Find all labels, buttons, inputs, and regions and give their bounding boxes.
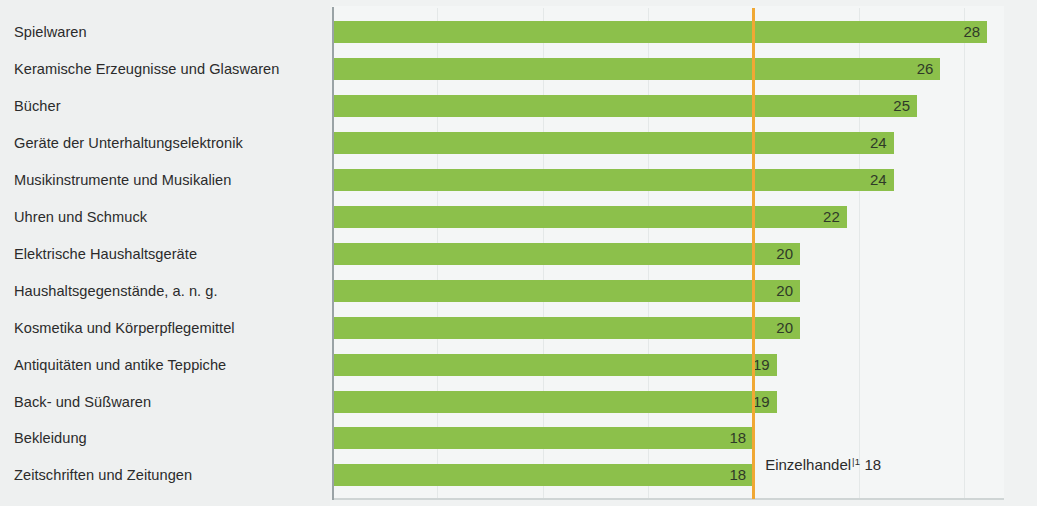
bar-value-label: 20 <box>332 280 800 302</box>
gridline <box>964 8 965 500</box>
bar-row: 20 <box>332 280 800 302</box>
bar-value-label: 22 <box>332 206 847 228</box>
category-label: Spielwaren <box>14 21 322 43</box>
category-label: Haushaltsgegenstände, a. n. g. <box>14 280 322 302</box>
plot-area: 28262524242220202019191818 Einzelhandel|… <box>332 0 1037 506</box>
reference-annotation-value: 18 <box>860 456 881 473</box>
bar-row: 19 <box>332 391 777 413</box>
category-label: Uhren und Schmuck <box>14 206 322 228</box>
category-label: Geräte der Unterhaltungselektronik <box>14 132 322 154</box>
bar-row: 24 <box>332 132 894 154</box>
bar-row: 26 <box>332 58 940 80</box>
bar-value-label: 24 <box>332 169 894 191</box>
bar-value-label: 24 <box>332 132 894 154</box>
bar-row: 28 <box>332 21 987 43</box>
category-label: Bücher <box>14 95 322 117</box>
bar-row: 25 <box>332 95 917 117</box>
bar-row: 18 <box>332 464 753 486</box>
bar-value-label: 19 <box>332 391 777 413</box>
reference-annotation: Einzelhandel|118 <box>765 453 881 474</box>
bar-row: 24 <box>332 169 894 191</box>
category-label: Elektrische Haushaltsgeräte <box>14 243 322 265</box>
category-label: Back- und Süßwaren <box>14 391 322 413</box>
category-label: Kosmetika und Körperpflegemittel <box>14 317 322 339</box>
axis-baseline <box>332 498 1004 500</box>
bar-value-label: 20 <box>332 243 800 265</box>
bar-chart: SpielwarenKeramische Erzeugnisse und Gla… <box>0 0 1037 506</box>
category-label: Bekleidung <box>14 427 322 449</box>
bar-value-label: 19 <box>332 354 777 376</box>
value-axis-line <box>332 7 334 500</box>
bar-value-label: 20 <box>332 317 800 339</box>
bar-row: 19 <box>332 354 777 376</box>
category-label: Antiquitäten und antike Teppiche <box>14 354 322 376</box>
bar-value-label: 18 <box>332 427 753 449</box>
bar-value-label: 25 <box>332 95 917 117</box>
category-label: Zeitschriften und Zeitungen <box>14 464 322 486</box>
bar-row: 18 <box>332 427 753 449</box>
bar-value-label: 28 <box>332 21 987 43</box>
reference-annotation-label: Einzelhandel <box>765 456 851 473</box>
bar-row: 22 <box>332 206 847 228</box>
bar-row: 20 <box>332 243 800 265</box>
category-label: Keramische Erzeugnisse und Glaswaren <box>14 58 322 80</box>
category-label: Musikinstrumente und Musikalien <box>14 169 322 191</box>
reference-line <box>752 8 755 499</box>
gridline <box>859 8 860 500</box>
bar-row: 20 <box>332 317 800 339</box>
bar-value-label: 26 <box>332 58 940 80</box>
bar-value-label: 18 <box>332 464 753 486</box>
category-axis: SpielwarenKeramische Erzeugnisse und Gla… <box>0 0 330 506</box>
